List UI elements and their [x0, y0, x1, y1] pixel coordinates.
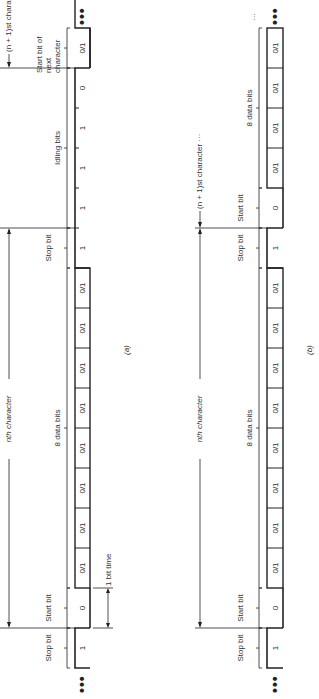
- bit-cell: 0/1: [78, 308, 87, 348]
- label-stop-bit-left-a: Stop bit: [44, 628, 53, 668]
- serial-framing-diagram: ••• ••• 1 0 0/1 0/1 0/1 0/1 0/1 0/1 0/1 …: [0, 0, 319, 699]
- bit-cell: 1: [78, 188, 87, 228]
- bit-cell: 0/1: [271, 548, 280, 588]
- label-stop-bit-left-b: Stop bit: [236, 628, 245, 668]
- label-stop-bit-b: Stop bit: [236, 228, 245, 268]
- bit-cell: 0: [271, 188, 280, 228]
- label-start-bit-a: Start bit: [44, 588, 53, 628]
- label-stop-bit-a: Stop bit: [44, 228, 53, 268]
- label-start-bit-next-a: Start bit of next character: [35, 23, 62, 73]
- ellipsis-left-a: •••: [74, 675, 90, 693]
- bit-cell: 1: [271, 228, 280, 268]
- bit-cell: 0: [78, 588, 87, 628]
- bit-cell: 1: [78, 228, 87, 268]
- bit-cell: 1: [271, 628, 280, 668]
- ellipsis-right-b: •••: [267, 7, 283, 25]
- bit-cell: 0/1: [78, 388, 87, 428]
- label-next-character-b: (n + 1)st character ···: [195, 99, 204, 209]
- label-next-character-a: (n + 1)st character: [4, 0, 13, 52]
- bit-cell: 0/1: [271, 348, 280, 388]
- bit-cell: 0/1: [271, 268, 280, 308]
- bit-cell: 1: [78, 628, 87, 668]
- caption-b: (b): [305, 345, 314, 355]
- bit-cell: 0/1: [78, 348, 87, 388]
- bit-cell: 0/1: [271, 28, 280, 68]
- label-one-bit-time: 1 bit time: [104, 536, 113, 586]
- label-start-bit-next-b: Start bit: [236, 188, 245, 228]
- bit-cell: 0/1: [78, 268, 87, 308]
- bit-cell: 0/1: [271, 468, 280, 508]
- label-data-bits-next-b: 8 data bits: [245, 68, 254, 148]
- bit-cell: 0/1: [271, 308, 280, 348]
- bit-cell: 0/1: [78, 468, 87, 508]
- label-nth-character-b: nth character: [195, 379, 204, 459]
- caption-a: (a): [122, 345, 131, 355]
- trailing-ellipsis-b: ···: [250, 7, 259, 27]
- label-data-bits-b: 8 data bits: [245, 388, 254, 468]
- bit-cell: 0/1: [271, 388, 280, 428]
- bit-cell: 0/1: [78, 28, 87, 68]
- bit-cell: 0/1: [78, 428, 87, 468]
- bit-cell: 1: [78, 148, 87, 188]
- label-data-bits-a: 8 data bits: [53, 388, 62, 468]
- label-idling-bits-a: Idling bits: [53, 108, 62, 188]
- label-start-bit-b: Start bit: [236, 588, 245, 628]
- ellipsis-left-b: •••: [267, 675, 283, 693]
- bit-cell: 0/1: [271, 108, 280, 148]
- ellipsis-right-a: •••: [74, 7, 90, 25]
- bit-cell: 0: [78, 68, 87, 108]
- bit-cell: 0/1: [271, 68, 280, 108]
- bit-cell: 1: [78, 108, 87, 148]
- bit-cell: 0: [271, 588, 280, 628]
- bit-cell: 0/1: [271, 428, 280, 468]
- bit-cell: 0/1: [78, 548, 87, 588]
- label-nth-character-a: nth character: [4, 379, 13, 459]
- bit-cell: 0/1: [78, 508, 87, 548]
- bit-cell: 0/1: [271, 508, 280, 548]
- bit-cell: 0/1: [271, 148, 280, 188]
